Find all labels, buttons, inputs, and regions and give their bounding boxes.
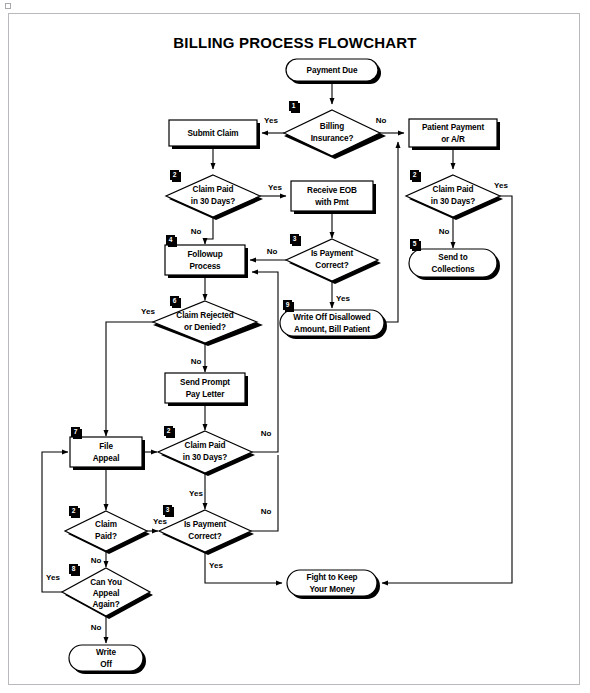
edge-label: No xyxy=(261,429,272,438)
node-label-line2: Collections xyxy=(431,265,475,274)
page-title: BILLING PROCESS FLOWCHART xyxy=(173,34,416,51)
node-label-line2: in 30 Days? xyxy=(191,197,236,206)
edge-label: Yes xyxy=(336,294,350,303)
node-label: Payment Due xyxy=(307,66,358,75)
svg-text:1: 1 xyxy=(292,102,296,109)
node-label-line2: Amount, Bill Patient xyxy=(294,325,370,334)
node-label-line2: Pay Letter xyxy=(186,390,226,399)
node-label-line2: Process xyxy=(189,262,221,271)
node-write-off-disallowed[interactable]: Write Off Disallowed Amount, Bill Patien… xyxy=(280,300,387,339)
edge-label: No xyxy=(191,357,202,366)
edge-label: No xyxy=(91,556,102,565)
node-is-payment-correct-1[interactable]: Is Payment Correct? 3 xyxy=(286,234,381,284)
flowchart-canvas: BILLING PROCESS FLOWCHART xyxy=(0,0,590,693)
badge-2: 2 xyxy=(69,506,80,518)
badge-3: 3 xyxy=(290,234,301,246)
node-claim-rejected[interactable]: Claim Rejected or Denied? 6 xyxy=(153,296,263,346)
flowchart-page: BILLING PROCESS FLOWCHART xyxy=(0,0,590,693)
node-label-line1: Receive EOB xyxy=(307,186,357,195)
node-can-you-appeal-again[interactable]: Can You Appeal Again? 8 xyxy=(62,564,153,619)
node-label-line1: Followup xyxy=(187,250,222,259)
node-label-line1: File xyxy=(99,442,113,451)
svg-text:3: 3 xyxy=(166,506,170,513)
connector-layer xyxy=(42,81,512,643)
node-label-line1: Is Payment xyxy=(311,249,354,258)
svg-text:8: 8 xyxy=(72,565,76,572)
edge-label: Yes xyxy=(189,489,203,498)
edge-label: Yes xyxy=(153,517,167,526)
badge-3: 3 xyxy=(163,505,174,517)
edge-label: No xyxy=(267,247,278,256)
badge-2: 2 xyxy=(410,170,421,182)
node-patient-payment[interactable]: Patient Payment or A/R xyxy=(409,119,500,150)
node-receive-eob[interactable]: Receive EOB with Pmt xyxy=(291,181,376,214)
node-claim-paid-30-bottom[interactable]: Claim Paid in 30 Days? 2 xyxy=(158,426,255,476)
node-label-line1: Patient Payment xyxy=(422,123,485,132)
node-label-line2: Correct? xyxy=(315,261,348,270)
node-layer: Payment Due Billing Insurance? 1 Submit … xyxy=(62,59,503,674)
node-claim-paid-30-right[interactable]: Claim Paid in 30 Days? 2 xyxy=(406,170,503,220)
node-send-prompt-pay-letter[interactable]: Send Prompt Pay Letter xyxy=(165,373,248,406)
badge-8: 8 xyxy=(69,564,80,576)
node-claim-paid[interactable]: Claim Paid? 2 xyxy=(65,506,150,554)
node-label-line1: Is Payment xyxy=(184,520,227,529)
node-label-line3: Again? xyxy=(92,600,119,609)
edge-label: Yes xyxy=(268,183,282,192)
node-label-line2: in 30 Days? xyxy=(431,197,476,206)
node-payment-due[interactable]: Payment Due xyxy=(286,59,381,84)
node-label-line1: Claim Paid xyxy=(433,185,474,194)
node-label-line1: Can You xyxy=(90,578,122,587)
edge-label: No xyxy=(91,623,102,632)
node-label-line1: Claim Rejected xyxy=(176,311,233,320)
node-label-line1: Write Off Disallowed xyxy=(293,313,371,322)
edge-label: No xyxy=(376,116,387,125)
svg-text:9: 9 xyxy=(286,301,290,308)
svg-text:4: 4 xyxy=(169,236,173,243)
node-label-line2: or A/R xyxy=(441,135,465,144)
node-label-line1: Claim Paid xyxy=(193,185,234,194)
node-label-line2: with Pmt xyxy=(314,198,349,207)
node-label-line2: Off xyxy=(100,660,112,669)
edge-label: Yes xyxy=(264,116,278,125)
node-fight-to-keep-your-money[interactable]: Fight to Keep Your Money xyxy=(287,570,380,599)
badge-2: 2 xyxy=(170,170,181,182)
badge-1: 1 xyxy=(289,101,300,113)
node-label-line1: Claim Paid xyxy=(185,441,226,450)
svg-text:5: 5 xyxy=(413,240,417,247)
node-label-line2: Appeal xyxy=(93,454,120,463)
node-label-line2: in 30 Days? xyxy=(183,453,228,462)
node-file-appeal[interactable]: File Appeal 7 xyxy=(70,427,145,470)
badge-2: 2 xyxy=(164,426,175,438)
node-label-line1: Billing xyxy=(320,122,344,131)
badge-5: 5 xyxy=(410,239,421,251)
edge-label: Yes xyxy=(46,573,60,582)
node-label: Submit Claim xyxy=(187,129,238,138)
node-label-line2: Appeal xyxy=(93,589,120,598)
node-is-payment-correct-2[interactable]: Is Payment Correct? 3 xyxy=(159,505,254,555)
svg-text:3: 3 xyxy=(293,235,297,242)
svg-text:2: 2 xyxy=(413,171,417,178)
svg-text:2: 2 xyxy=(72,507,76,514)
edge-label: Yes xyxy=(209,561,223,570)
node-label-line1: Send Prompt xyxy=(180,378,230,387)
svg-text:6: 6 xyxy=(173,297,177,304)
node-send-to-collections[interactable]: Send to Collections 5 xyxy=(409,239,500,280)
node-claim-paid-30-left[interactable]: Claim Paid in 30 Days? 2 xyxy=(166,170,263,220)
node-label-line2: or Denied? xyxy=(184,323,226,332)
edge-label: No xyxy=(439,227,450,236)
node-label-line2: Correct? xyxy=(188,532,221,541)
edge-label: Yes xyxy=(494,181,508,190)
node-billing-insurance[interactable]: Billing Insurance? 1 xyxy=(284,101,386,159)
node-label-line2: Insurance? xyxy=(311,134,354,143)
node-label-line1: Claim xyxy=(95,520,117,529)
node-label-line2: Your Money xyxy=(309,585,355,594)
node-followup-process[interactable]: Followup Process 4 xyxy=(165,235,248,278)
node-write-off[interactable]: Write Off xyxy=(69,645,146,674)
edge-label: Yes xyxy=(141,307,155,316)
node-submit-claim[interactable]: Submit Claim xyxy=(169,120,260,149)
svg-text:7: 7 xyxy=(74,428,78,435)
node-label-line2: Paid? xyxy=(95,532,117,541)
badge-9: 9 xyxy=(283,300,294,312)
svg-text:2: 2 xyxy=(167,427,171,434)
node-label-line1: Fight to Keep xyxy=(306,573,357,582)
